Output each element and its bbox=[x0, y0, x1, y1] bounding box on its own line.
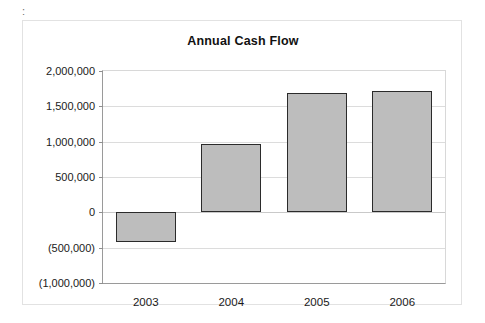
x-axis-label-2003: 2003 bbox=[133, 296, 159, 308]
x-axis-label-2006: 2006 bbox=[389, 296, 415, 308]
gridline bbox=[103, 248, 445, 249]
x-axis-label-2004: 2004 bbox=[218, 296, 244, 308]
y-axis-label: 1,000,000 bbox=[46, 136, 95, 148]
clipped-colon-fragment: : bbox=[22, 6, 25, 16]
bar-2006[interactable] bbox=[372, 91, 432, 212]
y-axis-tick bbox=[99, 71, 103, 72]
chart-frame: Annual Cash Flow 2,000,0001,500,0001,000… bbox=[22, 20, 462, 305]
chart-title: Annual Cash Flow bbox=[23, 34, 463, 48]
clipped-header-text: ' ' : bbox=[0, 0, 485, 20]
y-axis-tick bbox=[99, 177, 103, 178]
y-axis-tick bbox=[99, 142, 103, 143]
y-axis-tick bbox=[99, 248, 103, 249]
y-axis-label: (1,000,000) bbox=[39, 277, 95, 289]
y-axis-tick bbox=[99, 283, 103, 284]
y-axis-label: 0 bbox=[89, 206, 95, 218]
y-axis-tick bbox=[99, 212, 103, 213]
y-axis-label: (500,000) bbox=[48, 242, 95, 254]
y-axis-label: 2,000,000 bbox=[46, 65, 95, 77]
y-axis-tick bbox=[99, 106, 103, 107]
bar-2004[interactable] bbox=[201, 144, 261, 212]
bar-2003[interactable] bbox=[116, 212, 176, 242]
x-axis-label-2005: 2005 bbox=[304, 296, 330, 308]
y-axis-label: 500,000 bbox=[55, 171, 95, 183]
plot-area: 2,000,0001,500,0001,000,000500,0000(500,… bbox=[102, 70, 446, 284]
bar-2005[interactable] bbox=[287, 93, 347, 212]
clipped-top-fragment: ' ' bbox=[34, 0, 52, 4]
y-axis-label: 1,500,000 bbox=[46, 100, 95, 112]
